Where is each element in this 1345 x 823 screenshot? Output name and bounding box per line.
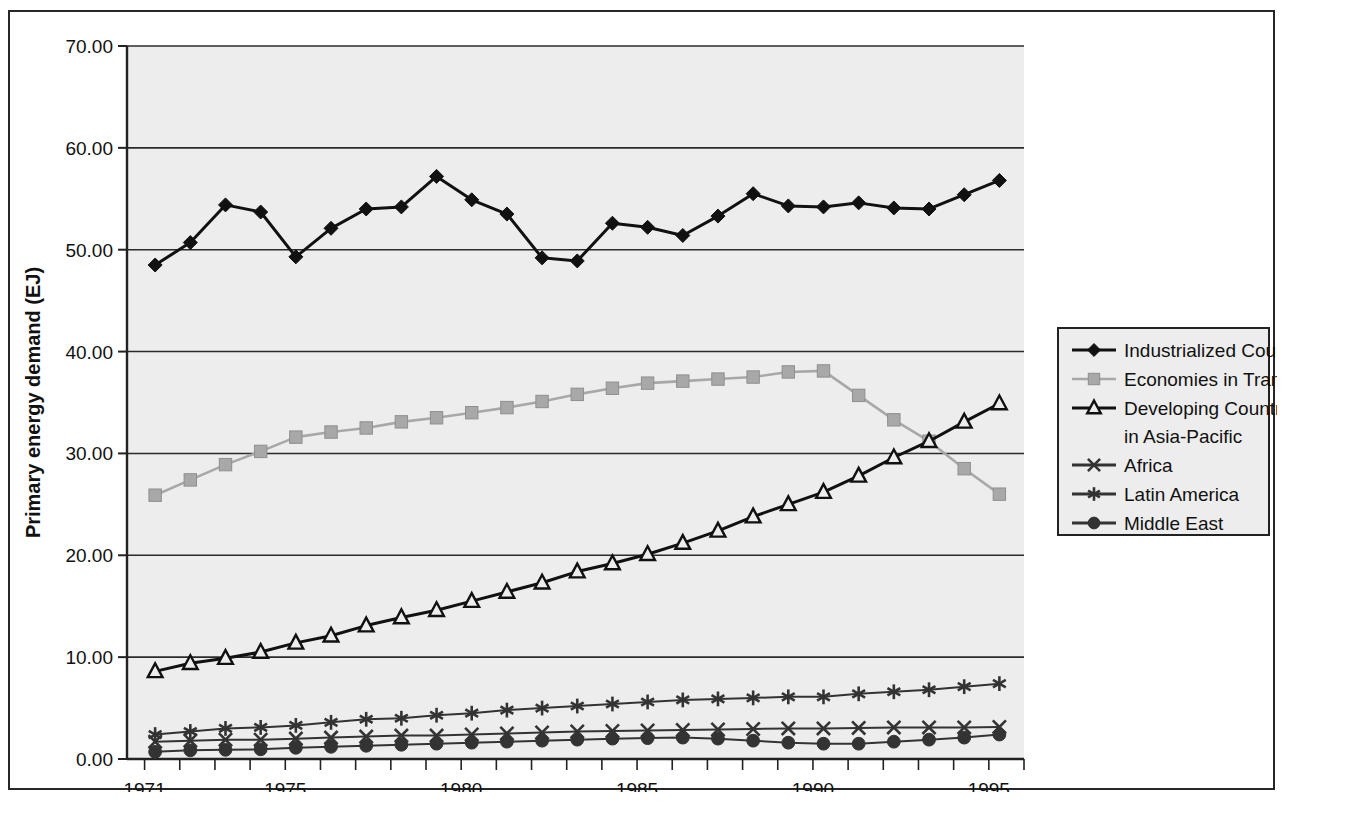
- marker-filled-circle: [887, 735, 900, 748]
- marker-filled-square: [852, 389, 864, 401]
- marker-filled-circle: [465, 736, 478, 749]
- marker-filled-square: [1088, 373, 1099, 384]
- marker-filled-square: [641, 377, 653, 389]
- marker-filled-square: [290, 431, 302, 443]
- y-axis-tick-label: 30.00: [65, 443, 113, 464]
- x-axis-tick-label: 1995: [968, 779, 1010, 792]
- marker-filled-circle: [782, 736, 795, 749]
- marker-filled-circle: [430, 737, 443, 750]
- marker-filled-circle: [676, 731, 689, 744]
- marker-filled-circle: [395, 738, 408, 751]
- marker-filled-square: [219, 458, 231, 470]
- marker-filled-circle: [289, 741, 302, 754]
- legend-label: in Asia-Pacific: [1124, 426, 1242, 447]
- marker-filled-square: [712, 373, 724, 385]
- x-axis-tick-label: 1985: [616, 779, 658, 792]
- legend-label: Industrialized Countries: [1124, 340, 1277, 361]
- marker-filled-square: [149, 489, 161, 501]
- marker-filled-circle: [571, 733, 584, 746]
- marker-filled-square: [782, 366, 794, 378]
- marker-filled-circle: [536, 734, 549, 747]
- marker-filled-circle: [184, 744, 197, 757]
- marker-filled-circle: [641, 732, 654, 745]
- legend-label: Developing Countries: [1124, 398, 1277, 419]
- marker-filled-square: [501, 401, 513, 413]
- marker-filled-square: [571, 388, 583, 400]
- y-axis-tick-label: 0.00: [76, 749, 113, 770]
- marker-filled-square: [395, 416, 407, 428]
- marker-filled-circle: [149, 745, 162, 758]
- y-axis-title: Primary energy demand (EJ): [22, 267, 44, 538]
- marker-filled-square: [325, 426, 337, 438]
- x-axis-tick-label: 1980: [440, 779, 482, 792]
- marker-filled-circle: [1088, 517, 1100, 529]
- line-chart: 0.0010.0020.0030.0040.0050.0060.0070.001…: [10, 12, 1277, 792]
- marker-filled-circle: [817, 737, 830, 750]
- y-axis-tick-label: 20.00: [65, 545, 113, 566]
- marker-filled-circle: [254, 743, 267, 756]
- legend-item-4[interactable]: in Asia-Pacific: [1124, 426, 1242, 447]
- legend-label: Middle East: [1124, 513, 1224, 534]
- figure-frame: 0.0010.0020.0030.0040.0050.0060.0070.001…: [8, 10, 1275, 790]
- marker-filled-circle: [747, 734, 760, 747]
- marker-filled-circle: [958, 731, 971, 744]
- marker-filled-square: [254, 445, 266, 457]
- chart-area: 0.0010.0020.0030.0040.0050.0060.0070.001…: [10, 12, 1277, 792]
- marker-filled-square: [993, 488, 1005, 500]
- y-axis-tick-label: 70.00: [65, 36, 113, 57]
- marker-filled-square: [430, 412, 442, 424]
- marker-filled-square: [360, 422, 372, 434]
- marker-filled-square: [606, 382, 618, 394]
- marker-filled-circle: [993, 728, 1006, 741]
- legend-label: Economies in Transition: [1124, 369, 1277, 390]
- marker-filled-circle: [219, 743, 232, 756]
- legend-label: Latin America: [1124, 484, 1240, 505]
- legend: Industrialized CountriesEconomies in Tra…: [1058, 328, 1277, 535]
- marker-filled-circle: [606, 732, 619, 745]
- marker-filled-square: [958, 463, 970, 475]
- x-axis-tick-label: 1971: [123, 779, 165, 792]
- marker-filled-square: [466, 406, 478, 418]
- marker-filled-circle: [712, 732, 725, 745]
- y-axis-tick-label: 60.00: [65, 138, 113, 159]
- marker-filled-square: [184, 474, 196, 486]
- marker-filled-square: [536, 395, 548, 407]
- y-axis-tick-label: 40.00: [65, 342, 113, 363]
- marker-filled-square: [747, 371, 759, 383]
- y-axis-tick-label: 10.00: [65, 647, 113, 668]
- marker-filled-circle: [325, 740, 338, 753]
- x-axis-tick-label: 1990: [792, 779, 834, 792]
- legend-label: Africa: [1124, 455, 1173, 476]
- x-axis-tick-label: 1975: [264, 779, 306, 792]
- marker-filled-circle: [360, 739, 373, 752]
- marker-filled-square: [888, 414, 900, 426]
- marker-filled-circle: [852, 737, 865, 750]
- marker-filled-square: [677, 375, 689, 387]
- marker-filled-circle: [501, 735, 514, 748]
- y-axis-tick-label: 50.00: [65, 240, 113, 261]
- marker-filled-circle: [923, 733, 936, 746]
- marker-filled-square: [817, 365, 829, 377]
